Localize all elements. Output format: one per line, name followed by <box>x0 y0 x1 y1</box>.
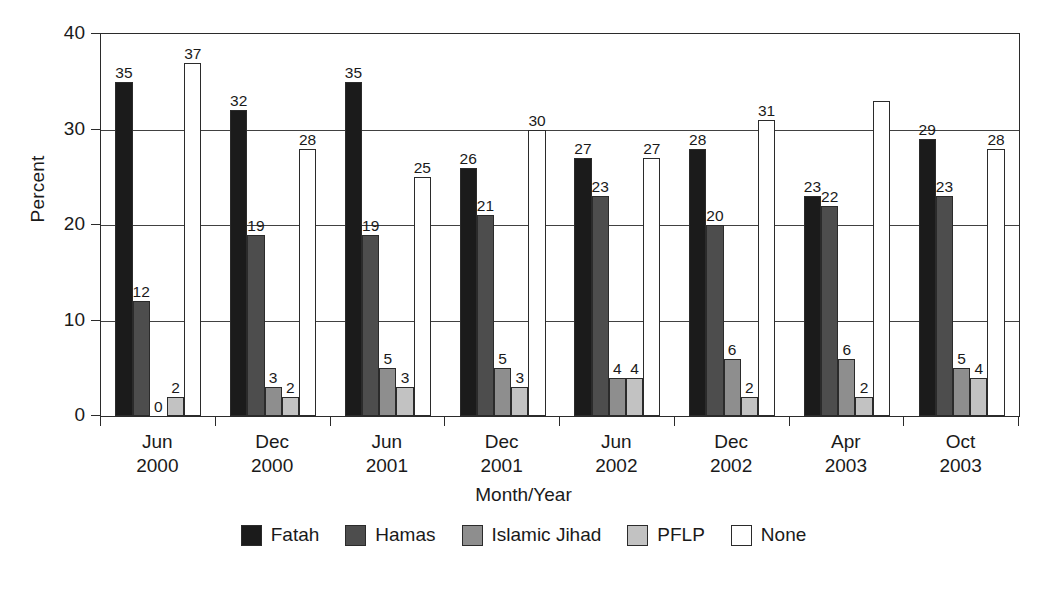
x-axis-tick-year: 2001 <box>327 454 447 478</box>
legend-swatch-icon <box>731 525 752 546</box>
y-axis-tick <box>91 129 100 130</box>
bar <box>855 397 872 416</box>
bar-value-label: 5 <box>368 351 408 367</box>
bar-value-label: 5 <box>483 351 523 367</box>
bar-value-label: 23 <box>924 179 964 195</box>
x-axis-tick-month: Dec <box>671 430 791 454</box>
legend-item[interactable]: None <box>731 524 806 546</box>
x-axis-tick-label: Jun2000 <box>97 430 217 478</box>
bar-value-label: 25 <box>402 160 442 176</box>
x-axis-tick-label: Dec2000 <box>212 430 332 478</box>
bar <box>511 387 528 416</box>
x-axis-tick-year: 2000 <box>97 454 217 478</box>
y-axis-tick <box>91 415 100 416</box>
x-axis-tick-year: 2001 <box>442 454 562 478</box>
legend-label: Hamas <box>375 524 435 546</box>
legend-item[interactable]: Hamas <box>345 524 435 546</box>
bar-value-label: 27 <box>563 141 603 157</box>
bar <box>936 196 953 416</box>
x-axis-tick-label: Dec2001 <box>442 430 562 478</box>
bar-value-label: 35 <box>104 65 144 81</box>
bar-value-label: 21 <box>465 198 505 214</box>
legend-label: PFLP <box>657 524 705 546</box>
bar-value-label: 35 <box>333 65 373 81</box>
x-axis-tick-label: Apr2003 <box>786 430 906 478</box>
y-axis-tick <box>91 33 100 34</box>
legend-swatch-icon <box>462 525 483 546</box>
x-axis-tick-month: Jun <box>97 430 217 454</box>
x-axis-tick <box>330 416 331 426</box>
x-axis-tick <box>559 416 560 426</box>
bar <box>184 63 201 416</box>
bar-value-label: 32 <box>219 93 259 109</box>
x-axis-tick-month: Jun <box>327 430 447 454</box>
x-axis-tick-year: 2002 <box>556 454 676 478</box>
bar <box>247 235 264 416</box>
bar-value-label: 20 <box>695 208 735 224</box>
bar-value-label: 22 <box>810 189 850 205</box>
legend-item[interactable]: Islamic Jihad <box>462 524 602 546</box>
bar-value-label: 23 <box>580 179 620 195</box>
x-axis-title: Month/Year <box>0 484 1047 506</box>
bar-value-label: 37 <box>173 46 213 62</box>
bar-value-label: 6 <box>712 342 752 358</box>
bar <box>477 215 494 416</box>
bar <box>592 196 609 416</box>
bar <box>970 378 987 416</box>
bar-value-label: 19 <box>236 218 276 234</box>
x-axis-tick-label: Oct2003 <box>901 430 1021 478</box>
bar <box>643 158 660 416</box>
y-axis-tick <box>91 320 100 321</box>
legend-label: None <box>761 524 806 546</box>
bar <box>396 387 413 416</box>
x-axis-tick-label: Jun2001 <box>327 430 447 478</box>
bar <box>414 177 431 416</box>
bar <box>362 235 379 416</box>
bar <box>528 130 545 417</box>
bar <box>987 149 1004 416</box>
bar <box>167 397 184 416</box>
x-axis-tick-label: Jun2002 <box>556 430 676 478</box>
bar <box>804 196 821 416</box>
x-axis-tick <box>903 416 904 426</box>
legend-item[interactable]: Fatah <box>241 524 320 546</box>
bar <box>574 158 591 416</box>
y-axis-tick-label: 30 <box>33 119 85 138</box>
legend-label: Fatah <box>271 524 320 546</box>
bar-value-label: 29 <box>907 122 947 138</box>
bar-value-label: 27 <box>632 141 672 157</box>
bar <box>609 378 626 416</box>
bar-value-label: 19 <box>351 218 391 234</box>
bar <box>821 206 838 416</box>
x-axis-tick-month: Apr <box>786 430 906 454</box>
y-axis-tick <box>91 224 100 225</box>
x-axis-tick <box>444 416 445 426</box>
bar-value-label: 31 <box>747 103 787 119</box>
x-axis-tick-month: Dec <box>212 430 332 454</box>
legend-swatch-icon <box>241 525 262 546</box>
y-axis-tick-label: 40 <box>33 23 85 42</box>
x-axis-tick-label: Dec2002 <box>671 430 791 478</box>
x-axis-tick <box>674 416 675 426</box>
bar-chart-figure: Percent 010203040 3512023732193228351953… <box>0 0 1047 591</box>
legend-swatch-icon <box>345 525 366 546</box>
x-axis-tick <box>215 416 216 426</box>
chart-legend: FatahHamasIslamic JihadPFLPNone <box>0 524 1047 546</box>
bar <box>345 82 362 416</box>
legend-item[interactable]: PFLP <box>627 524 705 546</box>
x-axis-tick-month: Dec <box>442 430 562 454</box>
bar <box>115 82 132 416</box>
x-axis-tick-year: 2002 <box>671 454 791 478</box>
y-axis-tick-label: 0 <box>33 405 85 424</box>
bar-value-label: 26 <box>448 151 488 167</box>
x-axis-tick-month: Jun <box>556 430 676 454</box>
x-axis-tick-year: 2003 <box>901 454 1021 478</box>
bar <box>299 149 316 416</box>
bar <box>282 397 299 416</box>
bar <box>873 101 890 416</box>
x-axis-tick <box>100 416 101 426</box>
bar <box>706 225 723 416</box>
y-axis-tick-label: 20 <box>33 214 85 233</box>
bar <box>689 149 706 416</box>
y-axis-tick-label: 10 <box>33 310 85 329</box>
